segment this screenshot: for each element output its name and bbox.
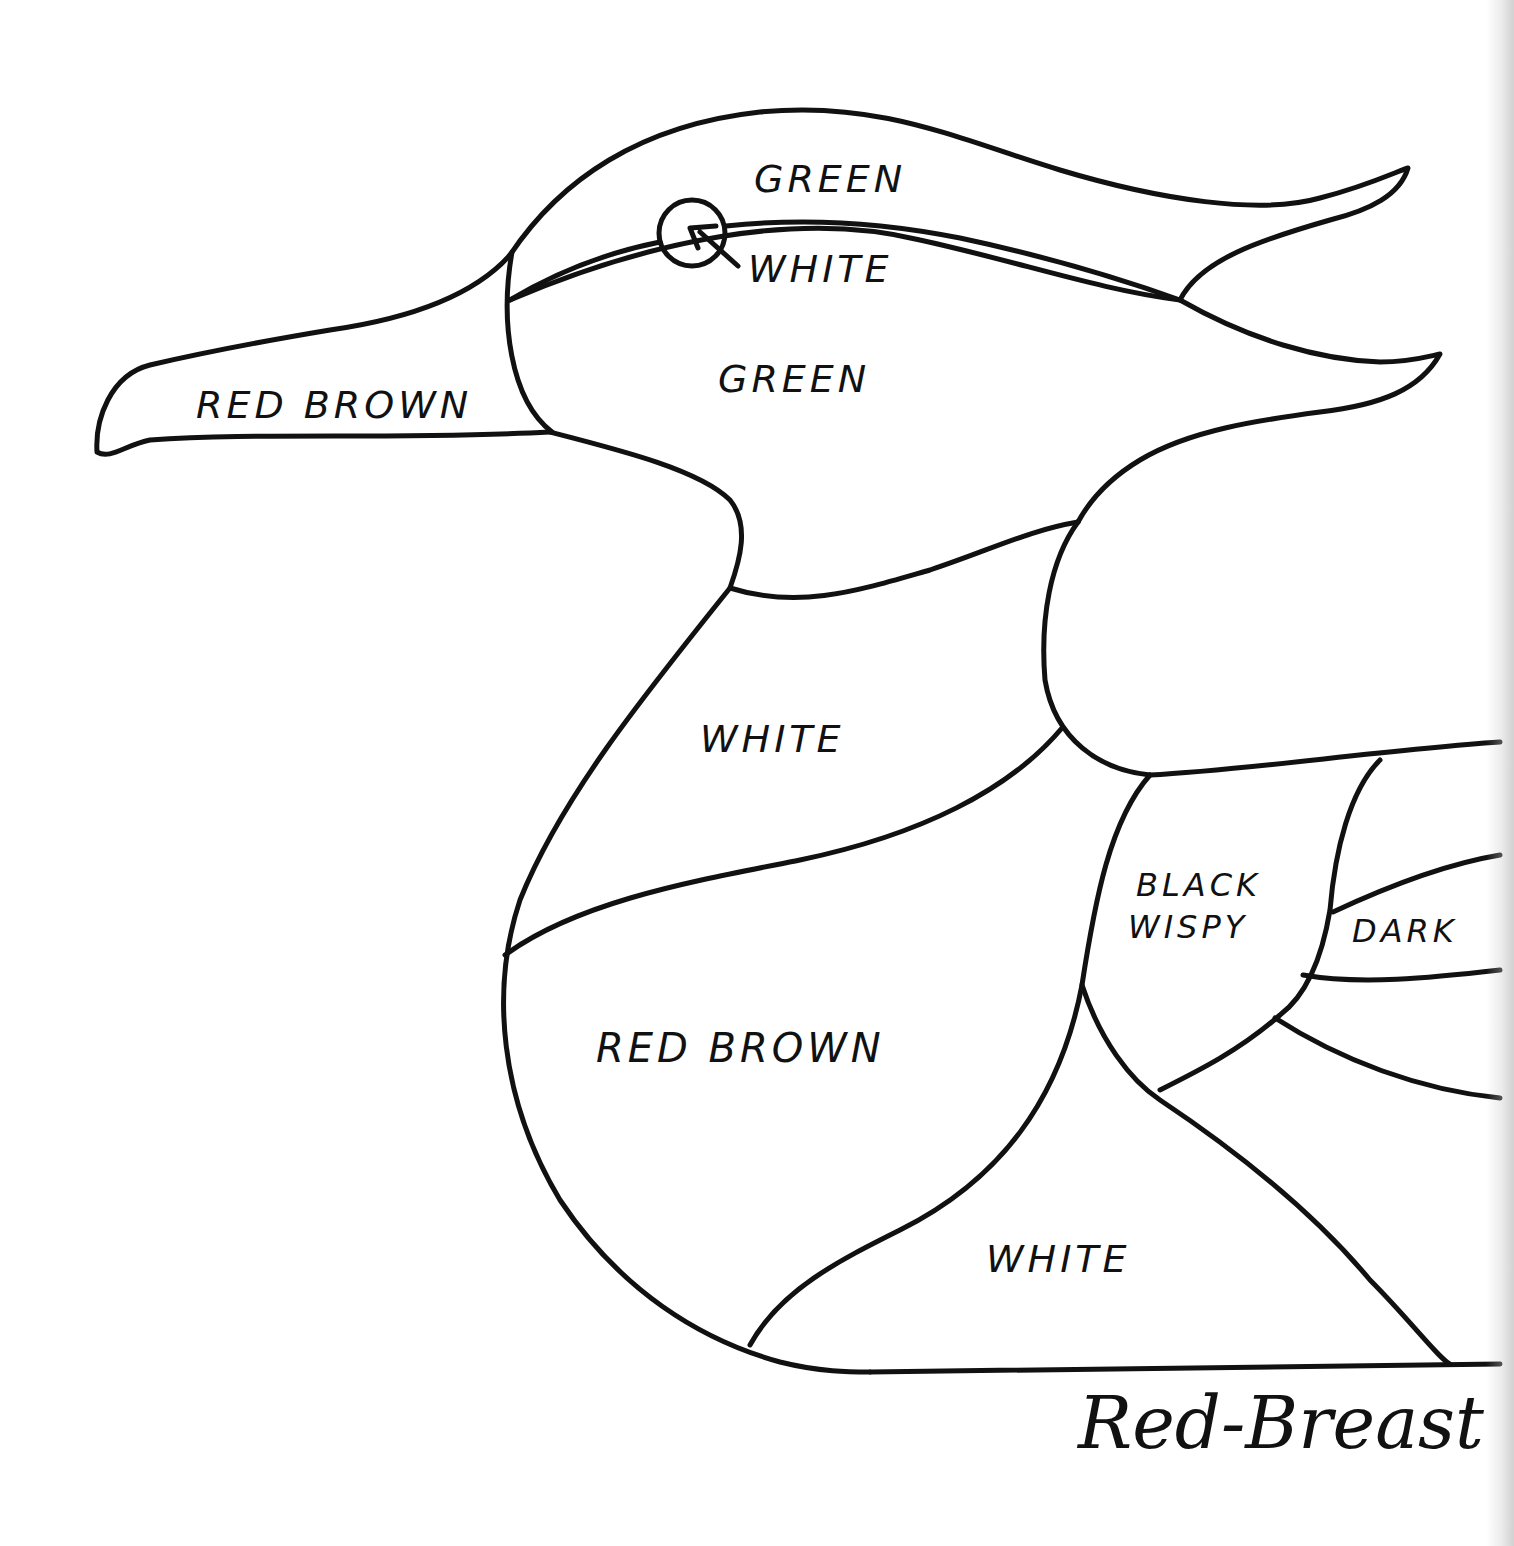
wing-stripe-mid xyxy=(1303,970,1500,980)
neck-breast-line xyxy=(505,728,1062,955)
wing-stripe-top xyxy=(1333,855,1500,912)
label-belly: WHITE xyxy=(986,1237,1131,1281)
label-breast: RED BROWN xyxy=(596,1025,885,1071)
label-side-line1: BLACK xyxy=(1136,866,1261,904)
base-line xyxy=(870,1364,1500,1372)
label-crown: GREEN xyxy=(754,157,906,201)
page-gutter-shadow xyxy=(1486,0,1514,1546)
belly-right-line xyxy=(1082,985,1450,1364)
head-crest-outline xyxy=(510,110,1408,300)
label-cheek: GREEN xyxy=(718,357,870,401)
wing-stripe-bottom xyxy=(1275,1018,1500,1098)
label-bill: RED BROWN xyxy=(196,383,472,427)
pattern-page: GREEN WHITE GREEN RED BROWN WHITE RED BR… xyxy=(0,0,1514,1546)
label-neck: WHITE xyxy=(700,717,845,761)
label-eye-stripe: WHITE xyxy=(748,247,893,291)
label-side-line2: WISPY xyxy=(1128,908,1248,946)
throat-outline xyxy=(550,432,1078,598)
label-wing-stripe: DARK xyxy=(1352,912,1458,950)
pattern-title: Red-Breast xyxy=(1076,1381,1485,1465)
front-body-outline xyxy=(504,588,870,1372)
bird-pattern-drawing: GREEN WHITE GREEN RED BROWN WHITE RED BR… xyxy=(0,0,1514,1546)
wing-outline xyxy=(1044,522,1500,775)
lower-crest-outline xyxy=(510,228,1440,522)
